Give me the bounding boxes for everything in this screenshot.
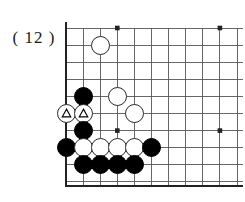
stone-black[interactable] (57, 138, 76, 157)
stone-white[interactable] (91, 36, 110, 55)
go-problem-figure: ( 12 ) (0, 0, 245, 202)
stone-black[interactable] (74, 155, 93, 174)
stone-white[interactable] (108, 87, 127, 106)
go-board[interactable] (60, 16, 245, 196)
stone-black[interactable] (108, 155, 127, 174)
stone-black[interactable] (142, 138, 161, 157)
stone-white[interactable] (125, 104, 144, 123)
stone-black[interactable] (125, 155, 144, 174)
go-board-stones-layer (60, 16, 245, 196)
stone-white-triangle-marked[interactable] (57, 104, 76, 123)
figure-number-label: ( 12 ) (6, 28, 62, 48)
stone-black[interactable] (91, 155, 110, 174)
triangle-icon (75, 105, 92, 122)
triangle-icon (58, 105, 75, 122)
